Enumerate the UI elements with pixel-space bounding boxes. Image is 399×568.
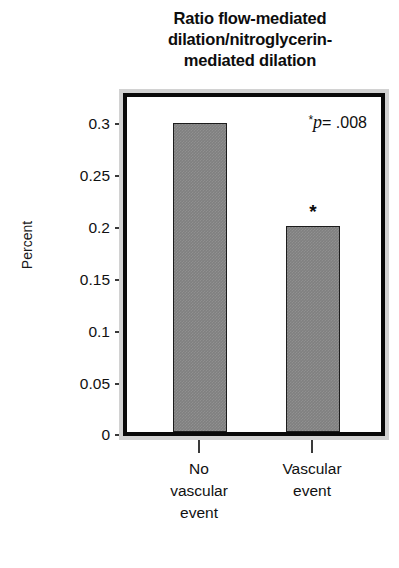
x-label-1-line-0: Vascular	[252, 458, 372, 480]
x-axis-label-vascular-event: Vascular event	[252, 458, 372, 502]
p-value-text: = .008	[322, 114, 367, 131]
x-tick-mark-0	[198, 440, 200, 453]
plot-area: *p= .008 *	[127, 97, 381, 432]
bar-vascular-event[interactable]	[286, 226, 340, 432]
x-label-0-line-2: event	[139, 502, 259, 524]
y-tick-1: 0.05	[80, 375, 124, 393]
chart-title-line-2: dilation/nitroglycerin-	[108, 29, 392, 50]
chart-title-line-1: Ratio flow-mediated	[108, 8, 392, 29]
chart-title-line-3: mediated dilation	[108, 50, 392, 71]
y-tick-label-3: 0.15	[80, 271, 110, 289]
x-label-0-line-0: No	[139, 458, 259, 480]
chart-title: Ratio flow-mediated dilation/nitroglycer…	[108, 8, 392, 71]
x-label-0-line-1: vascular	[139, 480, 259, 502]
x-label-1-line-1: event	[252, 480, 372, 502]
y-tick-label-0: 0	[101, 426, 110, 444]
y-axis-ticks: 0.3 0.25 0.2 0.15 0.1 0.05 0	[0, 0, 124, 568]
p-value-symbol: p	[313, 112, 322, 132]
y-tick-label-6: 0.3	[88, 115, 110, 133]
significance-star-icon: *	[286, 202, 340, 221]
x-tick-mark-1	[311, 440, 313, 453]
y-tick-label-2: 0.1	[88, 323, 110, 341]
y-tick-label-1: 0.05	[80, 375, 110, 393]
y-tick-label-4: 0.2	[88, 219, 110, 237]
y-tick-3: 0.15	[80, 271, 124, 289]
p-value-annotation: *p= .008	[308, 111, 367, 132]
x-axis-label-no-vascular-event: No vascular event	[139, 458, 259, 524]
y-tick-5: 0.25	[80, 167, 124, 185]
y-tick-label-5: 0.25	[80, 167, 110, 185]
x-axis: No vascular event Vascular event	[119, 440, 389, 568]
bar-no-vascular-event[interactable]	[173, 123, 227, 432]
